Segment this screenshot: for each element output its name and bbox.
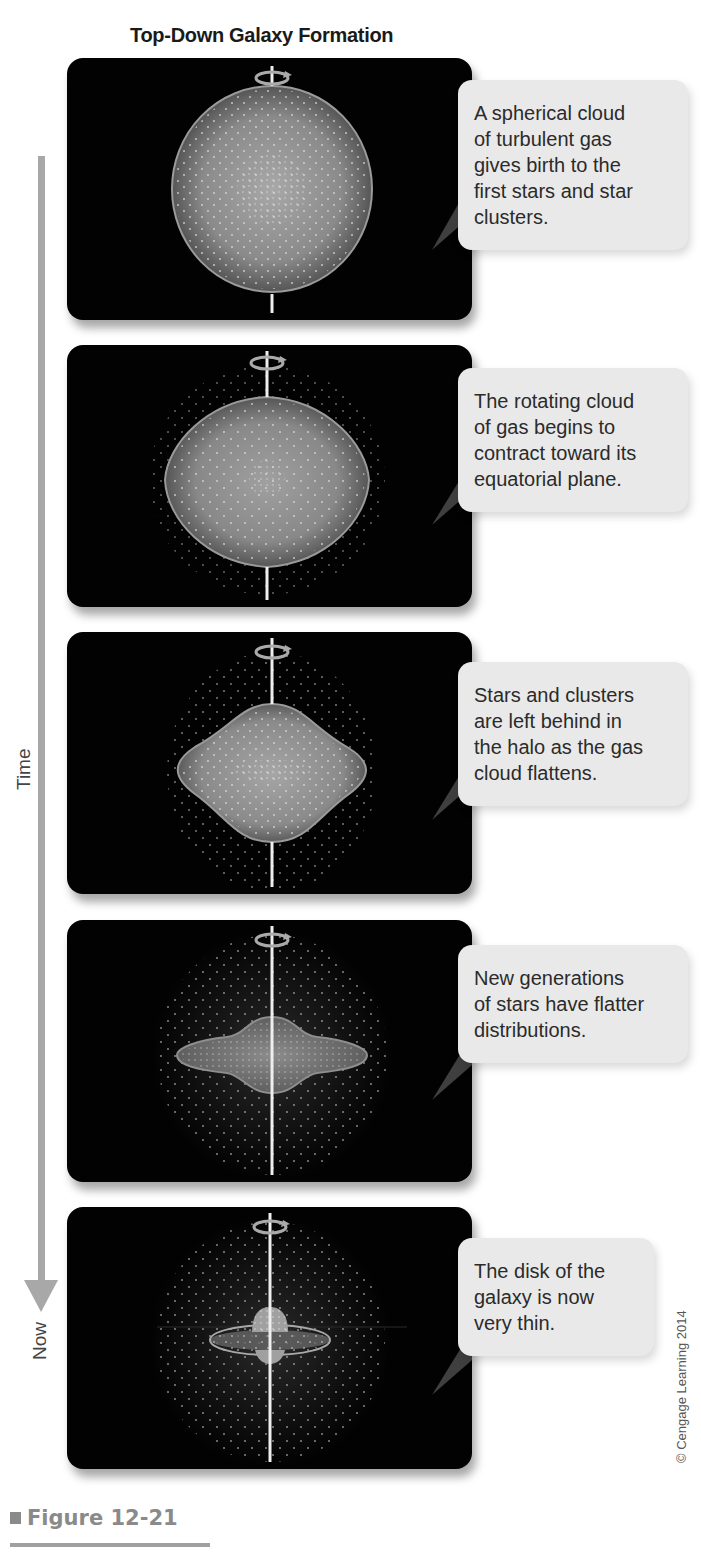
time-arrow-head-icon [24, 1280, 58, 1312]
panel-flatter-generations [67, 920, 472, 1182]
caption-line: Stars and clusters [474, 682, 678, 708]
caption-flatter-generations: New generations of stars have flatter di… [458, 945, 688, 1063]
panel-contracting-cloud [67, 345, 472, 607]
contracting-cloud-illustration [67, 345, 472, 607]
caption-line: of stars have flatter [474, 991, 678, 1017]
caption-flattening-cloud: Stars and clusters are left behind in th… [458, 662, 688, 806]
caption-line: The disk of the [474, 1258, 644, 1284]
now-label: Now [29, 1322, 51, 1360]
panel-thin-disk [67, 1207, 472, 1469]
caption-line: galaxy is now [474, 1284, 644, 1310]
caption-spherical-cloud: A spherical cloud of turbulent gas gives… [458, 80, 688, 250]
spherical-cloud-illustration [67, 58, 472, 320]
caption-line: are left behind in [474, 708, 678, 734]
caption-contracting-cloud: The rotating cloud of gas begins to cont… [458, 368, 688, 512]
caption-line: distributions. [474, 1017, 678, 1043]
flattening-cloud-illustration [67, 632, 472, 894]
caption-line: The rotating cloud [474, 388, 678, 414]
caption-line: of turbulent gas [474, 126, 678, 152]
panel-spherical-cloud [67, 58, 472, 320]
panel-flattening-cloud [67, 632, 472, 894]
copyright-notice: © Cengage Learning 2014 [674, 1310, 689, 1463]
caption-line: the halo as the gas [474, 734, 678, 760]
figure-number: Figure 12-21 [10, 1506, 178, 1530]
caption-line: of gas begins to [474, 414, 678, 440]
figure-underline [10, 1543, 210, 1547]
caption-line: gives birth to the [474, 152, 678, 178]
time-axis-label: Time [13, 748, 35, 790]
figure-label-text: Figure 12-21 [27, 1506, 178, 1530]
thin-disk-illustration [67, 1207, 472, 1469]
flatter-generations-illustration [67, 920, 472, 1182]
caption-line: equatorial plane. [474, 466, 678, 492]
caption-line: New generations [474, 965, 678, 991]
caption-line: first stars and star [474, 178, 678, 204]
caption-thin-disk: The disk of the galaxy is now very thin. [458, 1238, 654, 1356]
caption-line: clusters. [474, 204, 678, 230]
caption-line: contract toward its [474, 440, 678, 466]
time-arrow-shaft [38, 156, 45, 1281]
square-bullet-icon [10, 1512, 21, 1524]
rotation-icon [256, 71, 292, 84]
caption-line: cloud flattens. [474, 760, 678, 786]
figure-title: Top-Down Galaxy Formation [130, 24, 393, 47]
caption-line: very thin. [474, 1310, 644, 1336]
caption-line: A spherical cloud [474, 100, 678, 126]
